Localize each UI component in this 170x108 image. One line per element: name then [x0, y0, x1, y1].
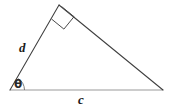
geometry-figure: d c θ — [0, 0, 170, 108]
side-label-d: d — [19, 41, 26, 54]
side-label-c: c — [78, 93, 84, 106]
triangle-edge-right — [59, 5, 163, 90]
right-angle-square-icon — [52, 7, 75, 30]
angle-label-theta: θ — [14, 78, 22, 90]
